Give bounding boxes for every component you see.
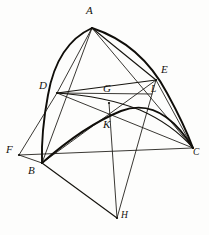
chord-E-H [117,80,156,218]
vertex-dot-D [56,92,58,94]
geometry-figure: A D E G L K F B C H [0,0,209,235]
chord-F-B [19,155,42,163]
vertex-label-E: E [161,64,168,75]
vertex-label-A: A [86,5,93,16]
chord-F-D [19,93,57,155]
vertex-label-D: D [39,80,47,91]
arc-B-K-C [42,108,193,163]
vertex-dot-E [155,79,157,81]
chord-F-C [19,148,193,155]
vertex-dot-H [116,217,118,219]
chord-B-H [42,163,117,218]
vertex-label-B: B [28,165,35,176]
vertex-dot-A [91,27,93,29]
vertex-dot-G [108,102,110,104]
vertex-label-L: L [151,85,156,95]
vertex-label-G: G [103,83,111,94]
vertex-dot-B [41,162,43,164]
vertex-label-K: K [103,119,110,130]
vertex-label-H: H [121,211,128,221]
chord-A-D [57,28,92,93]
vertex-dot-F [18,154,20,156]
chord-A-E [92,28,156,80]
chord-D-C [57,93,193,148]
vertex-label-C: C [193,148,199,158]
vertex-label-F: F [6,144,13,155]
